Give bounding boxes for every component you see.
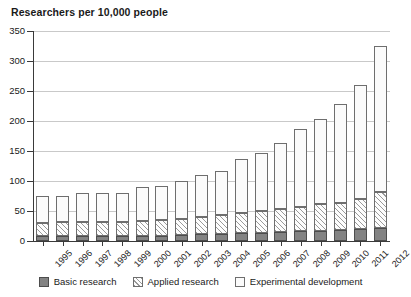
x-axis-label-2010: 2010 (350, 248, 371, 269)
bar-segment-experimental-development-1998 (96, 193, 109, 222)
chart-legend: Basic research Applied research Experime… (0, 276, 401, 287)
y-axis-label-200: 200 (0, 115, 25, 126)
bar-segment-applied-research-2008 (294, 207, 307, 232)
x-axis-label-1995: 1995 (53, 248, 74, 269)
bar-2010[interactable] (334, 31, 347, 241)
y-tick-150 (27, 151, 33, 152)
bar-segment-applied-research-2006 (255, 211, 268, 233)
x-tick-2005 (241, 242, 242, 246)
bar-2012[interactable] (374, 31, 387, 241)
bar-2006[interactable] (255, 31, 268, 241)
y-axis-label-50: 50 (0, 205, 25, 216)
bar-segment-experimental-development-1999 (116, 193, 129, 222)
x-tick-1995 (43, 242, 44, 246)
bar-1996[interactable] (56, 31, 69, 241)
x-tick-2006 (261, 242, 262, 246)
x-axis-label-1998: 1998 (112, 248, 133, 269)
y-tick-350 (27, 31, 33, 32)
y-axis-label-100: 100 (0, 175, 25, 186)
bar-segment-experimental-development-1995 (36, 196, 49, 223)
bar-segment-applied-research-2004 (215, 215, 228, 234)
bar-segment-basic-research-2009 (314, 231, 327, 241)
bar-1997[interactable] (76, 31, 89, 241)
bar-segment-basic-research-2010 (334, 230, 347, 241)
bar-segment-experimental-development-2003 (195, 175, 208, 217)
bar-segment-basic-research-2004 (215, 234, 228, 241)
y-tick-50 (27, 211, 33, 212)
bar-2005[interactable] (235, 31, 248, 241)
bar-segment-basic-research-2012 (374, 228, 387, 241)
x-tick-2003 (202, 242, 203, 246)
x-tick-2010 (340, 242, 341, 246)
x-axis-label-2004: 2004 (231, 248, 252, 269)
x-tick-2007 (281, 242, 282, 246)
x-axis-line (33, 241, 390, 242)
legend-label-experimental-development: Experimental development (250, 276, 362, 287)
x-tick-2011 (360, 242, 361, 246)
bar-segment-experimental-development-2010 (334, 104, 347, 203)
x-tick-1996 (63, 242, 64, 246)
legend-item-experimental-development: Experimental development (235, 276, 362, 287)
diagonal-hatch-swatch-icon (133, 277, 143, 287)
bar-2000[interactable] (136, 31, 149, 241)
x-axis-label-1999: 1999 (132, 248, 153, 269)
y-axis-label-0: 0 (0, 235, 25, 246)
bar-2009[interactable] (314, 31, 327, 241)
y-axis-label-150: 150 (0, 145, 25, 156)
bar-segment-applied-research-2010 (334, 203, 347, 231)
bar-segment-basic-research-2008 (294, 231, 307, 241)
x-tick-2008 (301, 242, 302, 246)
chart-title: Researchers per 10,000 people (11, 6, 168, 18)
x-tick-2002 (182, 242, 183, 246)
y-axis-label-350: 350 (0, 25, 25, 36)
bar-segment-experimental-development-2008 (294, 129, 307, 206)
bar-segment-experimental-development-1996 (56, 196, 69, 222)
bar-2003[interactable] (195, 31, 208, 241)
bar-1998[interactable] (96, 31, 109, 241)
dotted-swatch-icon (235, 277, 245, 287)
y-axis-line (33, 31, 34, 242)
bar-segment-applied-research-2007 (274, 209, 287, 232)
y-tick-200 (27, 121, 33, 122)
legend-label-basic-research: Basic research (54, 276, 117, 287)
x-axis-label-2011: 2011 (370, 248, 391, 269)
x-tick-2012 (380, 242, 381, 246)
x-tick-2004 (221, 242, 222, 246)
bar-2002[interactable] (175, 31, 188, 241)
bar-segment-applied-research-2005 (235, 213, 248, 233)
bar-segment-applied-research-2001 (155, 220, 168, 236)
bar-segment-applied-research-1997 (76, 222, 89, 236)
bar-2001[interactable] (155, 31, 168, 241)
bar-segment-experimental-development-2009 (314, 119, 327, 205)
bar-segment-experimental-development-2002 (175, 181, 188, 219)
bar-1999[interactable] (116, 31, 129, 241)
x-axis-label-2000: 2000 (152, 248, 173, 269)
bar-segment-basic-research-2006 (255, 233, 268, 241)
bar-2008[interactable] (294, 31, 307, 241)
bar-segment-applied-research-2002 (175, 219, 188, 235)
x-axis-label-2008: 2008 (311, 248, 332, 269)
bars-container (33, 31, 390, 241)
solid-gray-swatch-icon (39, 277, 49, 287)
bar-segment-applied-research-1999 (116, 222, 129, 236)
x-axis-label-1996: 1996 (73, 248, 94, 269)
bar-segment-experimental-development-2006 (255, 153, 268, 211)
bar-segment-basic-research-2011 (354, 229, 367, 241)
bar-2004[interactable] (215, 31, 228, 241)
bar-segment-experimental-development-1997 (76, 193, 89, 222)
bar-1995[interactable] (36, 31, 49, 241)
bar-2007[interactable] (274, 31, 287, 241)
x-tick-1999 (122, 242, 123, 246)
y-tick-250 (27, 91, 33, 92)
bar-segment-basic-research-2007 (274, 232, 287, 241)
bar-2011[interactable] (354, 31, 367, 241)
bar-segment-experimental-development-2005 (235, 159, 248, 213)
plot-area (33, 31, 390, 241)
bar-segment-applied-research-1996 (56, 222, 69, 236)
x-tick-2000 (142, 242, 143, 246)
legend-item-applied-research: Applied research (133, 276, 219, 287)
bar-segment-applied-research-2011 (354, 199, 367, 229)
legend-label-applied-research: Applied research (148, 276, 219, 287)
y-tick-0 (27, 241, 33, 242)
